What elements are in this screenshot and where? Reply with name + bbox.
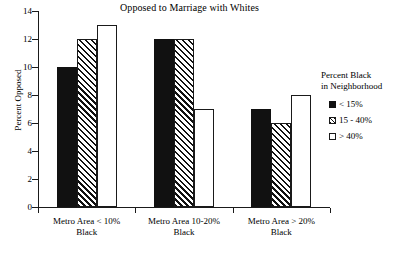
legend-swatch-solid-icon bbox=[329, 101, 336, 108]
x-axis-end-tick bbox=[38, 208, 39, 213]
y-tick-label: 10 bbox=[8, 63, 32, 72]
bar bbox=[154, 39, 174, 207]
legend-item-label: > 40% bbox=[339, 131, 363, 142]
bar bbox=[97, 25, 117, 207]
y-tick-label: 4 bbox=[8, 147, 32, 156]
bar bbox=[194, 109, 214, 207]
plot-area bbox=[38, 11, 330, 207]
x-axis-end-tick bbox=[330, 208, 331, 213]
y-tick-label: 8 bbox=[8, 91, 32, 100]
x-category-label: Metro Area 10-20%Black bbox=[130, 216, 237, 238]
x-category-label-line: Metro Area < 10% bbox=[33, 216, 140, 227]
y-tick-label: 0 bbox=[8, 203, 32, 212]
legend-title-line2: in Neighborhood bbox=[321, 81, 401, 92]
x-axis-separator-tick bbox=[135, 208, 136, 213]
y-tick-label: 6 bbox=[8, 119, 32, 128]
legend-item: 15 - 40% bbox=[329, 115, 401, 126]
x-category-label: Metro Area > 20%Black bbox=[228, 216, 335, 238]
bar bbox=[77, 39, 97, 207]
legend-item-label: 15 - 40% bbox=[339, 115, 372, 126]
legend-item: > 40% bbox=[329, 131, 401, 142]
bar bbox=[291, 95, 311, 207]
y-tick-label: 2 bbox=[8, 175, 32, 184]
legend-swatch-open-icon bbox=[329, 133, 336, 140]
legend-item: < 15% bbox=[329, 99, 401, 110]
x-category-label-line: Metro Area 10-20% bbox=[130, 216, 237, 227]
bar bbox=[174, 39, 194, 207]
x-category-label: Metro Area < 10%Black bbox=[33, 216, 140, 238]
x-axis-separator-tick bbox=[233, 208, 234, 213]
legend-items: < 15%15 - 40%> 40% bbox=[321, 99, 401, 142]
x-axis-line bbox=[38, 207, 330, 208]
bar bbox=[57, 67, 77, 207]
bar bbox=[271, 123, 291, 207]
x-category-label-line: Black bbox=[130, 227, 237, 238]
y-tick-label: 12 bbox=[8, 35, 32, 44]
legend-item-label: < 15% bbox=[339, 99, 363, 110]
y-tick-label: 14 bbox=[8, 7, 32, 16]
legend: Percent Black in Neighborhood < 15%15 - … bbox=[321, 70, 401, 147]
x-category-label-line: Black bbox=[33, 227, 140, 238]
x-category-label-line: Black bbox=[228, 227, 335, 238]
x-category-label-line: Metro Area > 20% bbox=[228, 216, 335, 227]
legend-swatch-hatched-icon bbox=[329, 117, 336, 124]
bar bbox=[251, 109, 271, 207]
chart-figure: Opposed to Marriage with Whites Percent … bbox=[0, 0, 401, 256]
legend-title-line1: Percent Black bbox=[321, 70, 401, 81]
